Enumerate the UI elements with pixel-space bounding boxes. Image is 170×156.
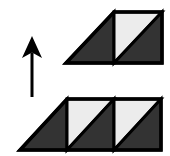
- up-arrow: [22, 36, 42, 97]
- figure-illustration: [0, 0, 170, 156]
- bottom-figure: [20, 99, 161, 150]
- up-arrow-shaft: [31, 53, 34, 98]
- figure-canvas: [0, 0, 170, 156]
- top-figure: [66, 12, 162, 63]
